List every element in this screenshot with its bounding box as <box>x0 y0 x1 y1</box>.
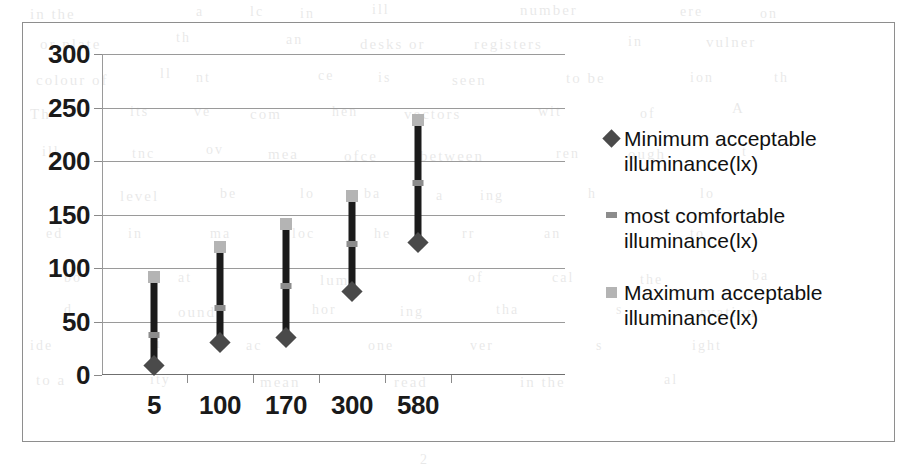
high-low-stick <box>151 277 158 367</box>
diamond-marker-icon <box>598 126 624 150</box>
gridline <box>102 54 565 55</box>
dash-marker-icon <box>598 203 624 227</box>
max-illuminance-marker <box>214 241 226 253</box>
diamond-shape <box>407 232 428 253</box>
bleedthrough-text: number <box>520 2 578 19</box>
comfortable-illuminance-marker <box>281 283 292 289</box>
x-axis-line <box>102 374 565 375</box>
square-marker-icon <box>598 280 624 304</box>
x-axis-tick-label: 580 <box>397 390 439 421</box>
high-low-stick <box>283 224 290 337</box>
diamond-shape <box>341 280 362 301</box>
bleedthrough-text: in <box>300 6 315 22</box>
legend-key-shape <box>606 287 617 298</box>
comfortable-illuminance-marker <box>149 332 160 338</box>
gridline <box>102 322 565 323</box>
y-axis-tick-mark <box>94 322 102 323</box>
chart-legend: Minimum acceptable illuminance(lx)most c… <box>598 126 878 357</box>
x-axis-tick-label: 100 <box>199 390 241 421</box>
gridline <box>102 108 565 109</box>
bleedthrough-text: ill <box>372 2 390 18</box>
bleedthrough-text: in the <box>30 6 76 23</box>
y-axis-tick-mark <box>94 375 102 376</box>
x-axis-tick-mark <box>385 375 386 383</box>
max-illuminance-marker <box>346 190 358 202</box>
diamond-shape <box>209 332 230 353</box>
legend-label: most comfortable illuminance(lx) <box>624 203 878 253</box>
gridline <box>102 268 565 269</box>
x-axis-tick-mark <box>253 375 254 383</box>
x-axis-tick-label: 5 <box>147 390 161 421</box>
legend-entry[interactable]: most comfortable illuminance(lx) <box>598 203 878 253</box>
y-axis-tick-label: 200 <box>48 146 90 177</box>
max-illuminance-marker <box>412 114 424 126</box>
x-axis-tick-mark <box>319 375 320 383</box>
y-axis-tick-label: 0 <box>76 360 90 391</box>
diamond-shape <box>275 326 296 347</box>
min-illuminance-marker <box>345 284 360 299</box>
min-illuminance-marker <box>213 335 228 350</box>
bleedthrough-text: lc <box>250 4 264 20</box>
y-axis-tick-mark <box>94 108 102 109</box>
legend-label: Minimum acceptable illuminance(lx) <box>624 126 878 176</box>
gridline <box>102 161 565 162</box>
min-illuminance-marker <box>279 330 294 345</box>
y-axis-tick-mark <box>94 215 102 216</box>
gridline <box>102 215 565 216</box>
legend-entry[interactable]: Maximum acceptable illuminance(lx) <box>598 280 878 330</box>
high-low-stick <box>217 247 224 343</box>
legend-key-shape <box>602 129 620 147</box>
legend-key-shape <box>606 212 617 218</box>
comfortable-illuminance-marker <box>215 305 226 311</box>
x-axis-tick-label: 170 <box>265 390 307 421</box>
y-axis-tick-label: 150 <box>48 199 90 230</box>
legend-label: Maximum acceptable illuminance(lx) <box>624 280 878 330</box>
x-axis-tick-mark <box>451 375 452 383</box>
y-axis-tick-label: 50 <box>62 306 90 337</box>
y-axis-tick-mark <box>94 54 102 55</box>
min-illuminance-marker <box>411 235 426 250</box>
y-axis-labels: 050100150200250300 <box>24 54 90 375</box>
diamond-shape <box>143 355 164 376</box>
comfortable-illuminance-marker <box>413 180 424 186</box>
max-illuminance-marker <box>280 218 292 230</box>
legend-entry[interactable]: Minimum acceptable illuminance(lx) <box>598 126 878 176</box>
y-axis-tick-label: 250 <box>48 92 90 123</box>
bleedthrough-text: ere <box>680 4 703 20</box>
bleedthrough-text: on <box>760 6 778 22</box>
min-illuminance-marker <box>147 358 162 373</box>
x-axis-tick-mark <box>187 375 188 383</box>
plot-area: 5100170300580 <box>102 54 565 375</box>
y-axis-tick-mark <box>94 161 102 162</box>
bleedthrough-text: 2 <box>420 452 429 468</box>
bleedthrough-text: a <box>196 4 204 20</box>
x-axis-tick-label: 300 <box>331 390 373 421</box>
max-illuminance-marker <box>148 271 160 283</box>
y-axis-tick-label: 100 <box>48 253 90 284</box>
comfortable-illuminance-marker <box>347 241 358 247</box>
y-axis-tick-mark <box>94 268 102 269</box>
y-axis-tick-label: 300 <box>48 39 90 70</box>
